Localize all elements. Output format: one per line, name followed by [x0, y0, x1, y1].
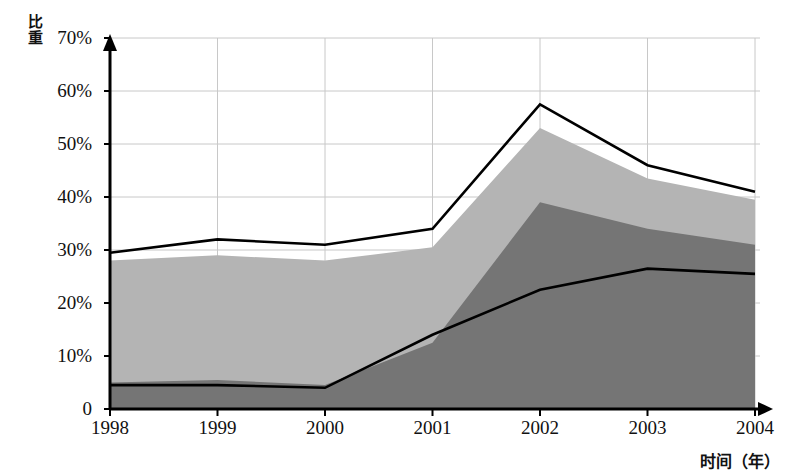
- plot-area: [0, 0, 798, 473]
- x-axis-arrowhead: [758, 402, 773, 416]
- chart-canvas: 比 重 70%60%50%40%30%20%10%0 1998199920002…: [0, 0, 798, 473]
- y-axis-arrowhead: [103, 34, 117, 51]
